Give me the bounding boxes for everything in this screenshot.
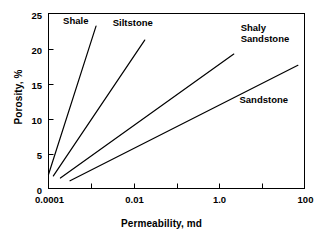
series-label-line: Shale: [63, 15, 88, 26]
series-label-shale: Shale: [63, 15, 88, 26]
series-label-siltstone: Siltstone: [113, 17, 153, 28]
chart-figure: 0.00010.011.0100 0510152025 ShaleSiltsto…: [0, 0, 323, 238]
x-tick-label: 0.0001: [35, 194, 64, 205]
series-label-sandstone: Sandstone: [240, 94, 289, 105]
series-label-line: Sandstone: [240, 94, 289, 105]
series-label-line: Sandstone: [241, 33, 290, 44]
series-label-shaly-sandstone: ShalySandstone: [241, 22, 290, 44]
y-tick-label: 0: [12, 184, 42, 195]
series-label-line: Siltstone: [113, 17, 153, 28]
y-axis-title: Porosity, %: [13, 70, 24, 125]
x-tick-label: 0.01: [125, 194, 144, 205]
series-label-line: Shaly: [241, 22, 290, 33]
x-tick-label: 1.0: [213, 194, 226, 205]
x-axis-title: Permeability, md: [0, 218, 323, 229]
y-axis-title-wrapper: Porosity, %: [8, 32, 26, 162]
x-tick-label: 100: [298, 194, 314, 205]
y-tick-label: 25: [12, 9, 42, 20]
